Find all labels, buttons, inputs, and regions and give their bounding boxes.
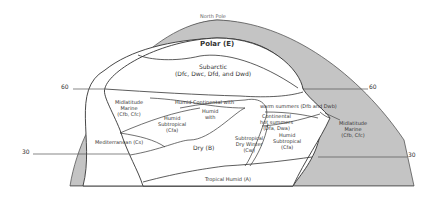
region-subtropical-dry-winter: Subtropical Dry Winter (Cw) <box>235 136 263 153</box>
region-humid-subtropical-left: Humid Subtropical (Cfa) <box>158 116 186 133</box>
region-warm-summers: warm summers (Dfb and Dwb) <box>260 104 337 110</box>
region-mediterranean: Mediterranean (Cs) <box>95 140 143 146</box>
region-midlatitude-marine-left: Midlatitude Marine (Cfb, Cfc) <box>115 100 143 117</box>
region-polar: Polar (E) <box>200 40 234 48</box>
region-humid-with: Humid with <box>202 109 218 121</box>
lat-60-left-label: 60 <box>61 84 69 91</box>
region-tropical-humid: Tropical Humid (A) <box>205 177 251 183</box>
region-humid-continental: Humid Continental with <box>175 100 234 106</box>
north-pole-label: North Pole <box>200 14 226 20</box>
region-dry: Dry (B) <box>193 145 214 152</box>
region-midlatitude-marine-right: Midlatitude Marine (Cfb, Cfc) <box>339 121 367 138</box>
lat-60-right-label: 60 <box>369 84 377 91</box>
region-continental-hot: Continental hot summers (Dfa, Dwa) <box>260 114 293 131</box>
lat-30-left-label: 30 <box>22 149 30 156</box>
region-humid-subtropical-right: Humid Subtropical (Cfa) <box>273 133 301 150</box>
region-subarctic: Subarctic (Dfc, Dwc, Dfd, and Dwd) <box>175 64 251 78</box>
lat-30-right-label: 30 <box>408 152 416 159</box>
